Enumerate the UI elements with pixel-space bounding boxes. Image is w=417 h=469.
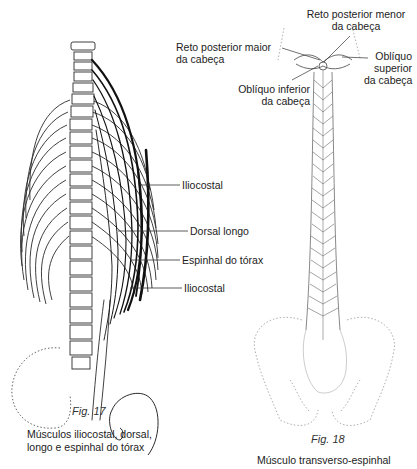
label-espinhal-do-torax: Espinhal do tórax <box>182 254 263 266</box>
label-iliocostal-upper: Iliocostal <box>182 179 223 191</box>
label-iliocostal-lower: Iliocostal <box>184 282 225 294</box>
label-obliquo-inferior-line2: da cabeça <box>226 95 310 107</box>
label-obliquo-superior-line2: superior <box>364 62 412 74</box>
label-reto-posterior-maior-line2: da cabeça <box>176 53 271 65</box>
label-reto-posterior-maior-line1: Reto posterior maior <box>176 41 271 53</box>
label-obliquo-inferior: Oblíquo inferior da cabeça <box>226 83 310 107</box>
fig17-caption-line2: longo e espinhal do tórax <box>27 441 152 454</box>
label-dorsal-longo: Dorsal longo <box>190 225 249 237</box>
label-obliquo-inferior-line1: Oblíquo inferior <box>226 83 310 95</box>
label-obliquo-superior-line3: da cabeça <box>364 74 412 86</box>
label-reto-posterior-menor: Reto posterior menor da cabeça <box>306 8 406 32</box>
label-reto-posterior-menor-line2: da cabeça <box>306 20 406 32</box>
fig18-caption: Músculo transverso-espinhal <box>257 454 391 467</box>
fig18-number: Fig. 18 <box>311 433 345 445</box>
fig17-caption-line1: Músculos iliocostal, dorsal, <box>27 428 152 441</box>
label-reto-posterior-maior: Reto posterior maior da cabeça <box>176 41 271 65</box>
fig17-caption: Músculos iliocostal, dorsal, longo e esp… <box>27 428 152 454</box>
label-reto-posterior-menor-line1: Reto posterior menor <box>306 8 406 20</box>
label-obliquo-superior-line1: Oblíquo <box>364 50 412 62</box>
label-obliquo-superior: Oblíquo superior da cabeça <box>364 50 412 86</box>
fig17-number: Fig. 17 <box>72 405 106 417</box>
